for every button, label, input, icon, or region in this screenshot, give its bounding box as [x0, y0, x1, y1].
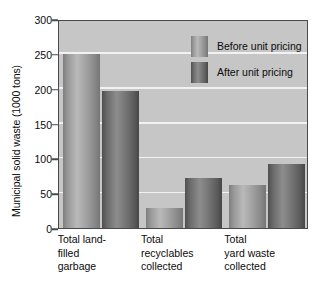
y-axis-title: Municipal solid waste (1000 tons) — [10, 46, 22, 236]
chart-legend: Before unit pricing After unit pricing — [191, 35, 326, 87]
bar-chart-figure: Municipal solid waste (1000 tons) 050100… — [0, 0, 326, 287]
x-category-3-line-1: Total — [224, 233, 275, 247]
y-tick-label-50: 50 — [18, 188, 52, 200]
y-tick-label-300: 300 — [18, 14, 52, 26]
x-category-1-line-3: garbage — [58, 260, 106, 274]
legend-item-after: After unit pricing — [191, 61, 326, 83]
y-tick-label-0: 0 — [18, 223, 52, 235]
legend-label-after: After unit pricing — [217, 66, 293, 78]
legend-swatch-after-icon — [191, 62, 208, 83]
plot-area: Before unit pricing After unit pricing — [58, 20, 308, 229]
x-category-label-2: Totalrecyclablescollected — [141, 233, 194, 274]
bar-before-group-1 — [63, 54, 100, 228]
bar-after-group-3 — [268, 164, 305, 228]
legend-label-before: Before unit pricing — [217, 40, 302, 52]
bar-before-group-2 — [146, 208, 183, 228]
bar-after-group-1 — [102, 91, 139, 228]
x-category-3-line-3: collected — [224, 260, 275, 274]
y-tick-label-150: 150 — [18, 119, 52, 131]
x-category-label-3: Totalyard wastecollected — [224, 233, 275, 274]
bar-before-group-3 — [229, 185, 266, 228]
y-tick-label-100: 100 — [18, 153, 52, 165]
x-category-2-line-1: Total — [141, 233, 194, 247]
y-tick-label-200: 200 — [18, 84, 52, 96]
y-tick-label-250: 250 — [18, 49, 52, 61]
legend-swatch-before-icon — [191, 36, 208, 57]
x-category-2-line-2: recyclables — [141, 247, 194, 261]
bar-after-group-2 — [185, 178, 222, 228]
x-axis-category-labels: Total land-filledgarbageTotalrecyclables… — [58, 233, 308, 287]
x-category-1-line-2: filled — [58, 247, 106, 261]
x-category-1-line-1: Total land- — [58, 233, 106, 247]
x-category-label-1: Total land-filledgarbage — [58, 233, 106, 274]
x-category-3-line-2: yard waste — [224, 247, 275, 261]
x-category-2-line-3: collected — [141, 260, 194, 274]
legend-item-before: Before unit pricing — [191, 35, 326, 57]
